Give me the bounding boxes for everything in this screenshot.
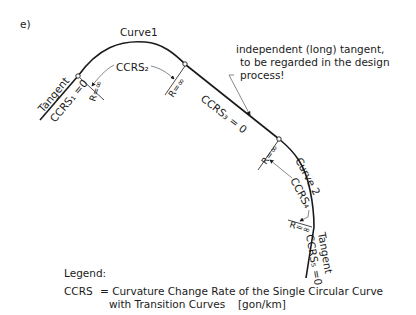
r-infinity-label-3: R=∞ <box>259 143 279 166</box>
annotation-leader <box>229 75 250 115</box>
r-infinity-label-1: R=∞ <box>87 79 104 102</box>
junction-point <box>183 62 187 66</box>
r-infinity-label-4: R=∞ <box>288 219 311 235</box>
figure-label: e) <box>20 18 31 30</box>
ccrs2-label: CCRS₂ <box>116 61 149 73</box>
legend-unit: [gon/km] <box>238 298 286 310</box>
road-alignment-diagram: e) Curve1 CCRS₂ Tangent CCRS₁ =0 R=∞ R=∞… <box>0 0 416 315</box>
junction-point <box>277 137 281 141</box>
annotation-line1: independent (long) tangent, <box>236 43 384 55</box>
annotation-line3: process! <box>240 69 285 81</box>
ccrs2-leader-right <box>151 66 174 79</box>
annotation-line2: to be regarded in the design <box>240 56 390 68</box>
legend-symbol: CCRS <box>64 285 93 297</box>
ccrs4-leader-top <box>270 160 292 178</box>
legend-title: Legend: <box>64 267 106 279</box>
ccrs3-label: CCRS₃ = 0 <box>199 92 250 135</box>
curve1-label: Curve1 <box>120 26 158 38</box>
legend-definition-line2: with Transition Curves <box>109 298 225 310</box>
ccrs4-leader-bottom <box>300 210 309 221</box>
r-infinity-label-2: R=∞ <box>166 76 186 99</box>
legend-definition-line1: = Curvature Change Rate of the Single Ci… <box>100 285 383 297</box>
